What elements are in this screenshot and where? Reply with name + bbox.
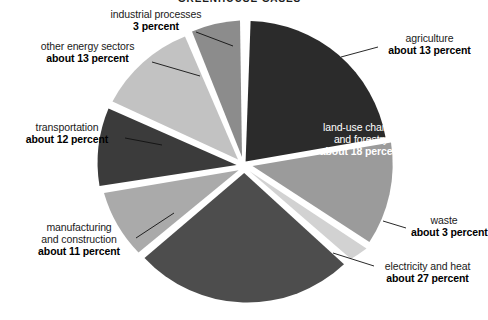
slice-label-electricity-and-heat: electricity and heat about 27 percent (378, 261, 477, 285)
slice-label-name: other energy sectors (16, 41, 159, 53)
slice-label-land-use-change-and-forestry: land-use change and forestry about 18 pe… (306, 122, 416, 157)
slice-label-name-line1: land-use change (306, 122, 416, 134)
slice-label-value: about 3 percent (411, 227, 477, 239)
slice-label-industrial-processes: industrial processes 3 percent (96, 9, 216, 33)
slice-label-value: 3 percent (96, 21, 216, 33)
slice-label-name-line1: manufacturing (24, 222, 134, 234)
slice-label-value: about 27 percent (378, 273, 477, 285)
slice-label-name: electricity and heat (378, 261, 477, 273)
slice-label-manufacturing-and-construction: manufacturing and construction about 11 … (24, 222, 134, 257)
slice-label-value: about 11 percent (24, 246, 134, 258)
slice-label-transportation: transportation about 12 percent (10, 122, 124, 146)
slice-label-name: transportation (10, 122, 124, 134)
slice-label-waste: waste about 3 percent (411, 215, 477, 239)
slice-label-value: about 18 percent (306, 146, 416, 158)
slice-label-name: industrial processes (96, 9, 216, 21)
slice-label-other-energy-sectors: other energy sectors about 13 percent (16, 41, 159, 65)
slice-label-agriculture: agriculture about 13 percent (382, 33, 477, 57)
slice-label-name-line2: and construction (24, 234, 134, 246)
slice-label-name: waste (411, 215, 477, 227)
slice-label-value: about 13 percent (16, 53, 159, 65)
slice-label-value: about 13 percent (382, 45, 477, 57)
slice-label-value: about 12 percent (10, 134, 124, 146)
slice-label-name-line2: and forestry (306, 134, 416, 146)
slice-label-name: agriculture (382, 33, 477, 45)
